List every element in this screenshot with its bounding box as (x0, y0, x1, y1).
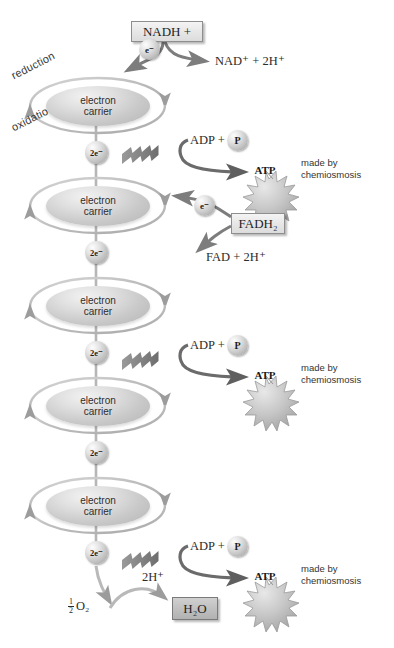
fadh2-label: FADH₂ (239, 216, 278, 232)
phosphate-label-3: P (234, 541, 240, 552)
phosphate-sphere-2: P (227, 335, 248, 356)
phosphate-sphere-1: P (227, 130, 248, 151)
water-label: H₂O (183, 601, 206, 617)
electron-carrier-3[interactable]: electron carrier (46, 286, 150, 326)
oxygen-label: 1 2 O₂ (68, 598, 89, 615)
phosphate-sphere-3: P (227, 536, 248, 557)
chemiosmosis-note-1-line2: chemiosmosis (301, 169, 361, 180)
oxygen-fraction: 1 2 (68, 598, 74, 615)
electron-pair-2-label: 2e⁻ (90, 248, 103, 258)
electron-pair-3-label: 2e⁻ (90, 348, 103, 358)
fadh2-electron-sphere: e⁻ (194, 195, 215, 216)
carrier-3-line1: electron (80, 295, 116, 306)
carrier-5-line2: carrier (84, 506, 112, 517)
electron-pair-4: 2e⁻ (85, 441, 108, 464)
carrier-2-line1: electron (80, 195, 116, 206)
electron-carrier-5[interactable]: electron carrier (46, 486, 150, 526)
electron-transport-chain-diagram: reduction oxidation NADH + e⁻ NAD⁺ + 2H⁺… (0, 0, 394, 648)
oxygen-formula: O₂ (76, 599, 89, 614)
carrier-3-line2: carrier (84, 306, 112, 317)
atp-starburst-icons (243, 170, 299, 632)
carrier-1-line1: electron (80, 95, 116, 106)
chemiosmosis-note-2-line1: made by (301, 362, 337, 373)
adp-label-2: ADP + (190, 338, 225, 353)
carrier-2-line2: carrier (84, 206, 112, 217)
electron-pair-1: 2e⁻ (85, 141, 108, 164)
electron-pair-3: 2e⁻ (85, 341, 108, 364)
oxygen-denominator: 2 (68, 607, 74, 615)
electron-pair-5: 2e⁻ (85, 541, 108, 564)
water-box[interactable]: H₂O (172, 597, 218, 620)
phosphate-label-2: P (234, 340, 240, 351)
phosphate-label-1: P (234, 135, 240, 146)
chemiosmosis-note-3-line1: made by (301, 563, 337, 574)
protons-label: 2H⁺ (142, 569, 164, 585)
electron-carrier-4[interactable]: electron carrier (46, 386, 150, 426)
electron-pair-5-label: 2e⁻ (90, 548, 103, 558)
carrier-4-line2: carrier (84, 406, 112, 417)
fad-product-label: FAD + 2H⁺ (206, 249, 266, 265)
carrier-4-line1: electron (80, 395, 116, 406)
chemiosmosis-note-2: made by chemiosmosis (301, 362, 361, 386)
adp-label-3: ADP + (190, 539, 225, 554)
electron-pair-1-label: 2e⁻ (90, 148, 103, 158)
nadh-label: NADH + (143, 24, 191, 40)
electron-pair-4-label: 2e⁻ (90, 448, 103, 458)
fadh2-electron-label: e⁻ (200, 201, 209, 211)
chemiosmosis-note-3: made by chemiosmosis (301, 563, 361, 587)
electron-carrier-2[interactable]: electron carrier (46, 186, 150, 226)
chemiosmosis-note-3-line2: chemiosmosis (301, 575, 361, 586)
carrier-1-line2: carrier (84, 106, 112, 117)
electron-pair-2: 2e⁻ (85, 241, 108, 264)
chemiosmosis-note-1: made by chemiosmosis (301, 157, 361, 181)
chemiosmosis-note-1-line1: made by (301, 157, 337, 168)
nad-product-label: NAD⁺ + 2H⁺ (215, 53, 285, 69)
chemiosmosis-note-2-line2: chemiosmosis (301, 374, 361, 385)
electron-carrier-1[interactable]: electron carrier (46, 86, 150, 126)
adp-label-1: ADP + (190, 133, 225, 148)
nadh-electron-sphere: e⁻ (139, 39, 160, 60)
nadh-electron-label: e⁻ (145, 45, 154, 55)
nadh-box[interactable]: NADH + (131, 21, 203, 42)
fadh2-box[interactable]: FADH₂ (231, 213, 285, 234)
carrier-5-line1: electron (80, 495, 116, 506)
